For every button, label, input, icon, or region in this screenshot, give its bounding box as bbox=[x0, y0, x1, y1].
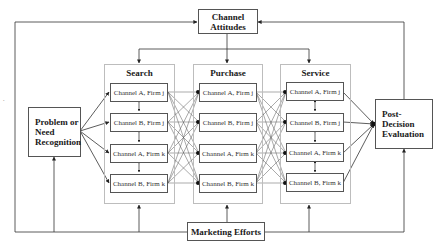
channel-box: Channel B, Firm j bbox=[110, 113, 168, 132]
channel-attitudes-box: Channel Attitudes bbox=[198, 9, 258, 34]
stage-title: Purchase bbox=[194, 68, 262, 78]
channel-box: Channel A, Firm j bbox=[110, 83, 168, 102]
channel-box: Channel A, Firm k bbox=[110, 144, 168, 163]
channel-box: Channel B, Firm j bbox=[286, 113, 344, 132]
channel-box: Channel B, Firm k bbox=[199, 174, 257, 193]
stage-title: Service bbox=[281, 68, 350, 78]
channel-box: Channel B, Firm k bbox=[286, 173, 344, 192]
channel-box: Channel A, Firm k bbox=[199, 144, 257, 163]
post-decision-box: Post-Decision Evaluation bbox=[375, 99, 433, 149]
problem-recognition-box: Problem or Need Recognition bbox=[28, 107, 81, 157]
stage-title: Search bbox=[105, 68, 174, 78]
channel-box: Channel B, Firm j bbox=[199, 113, 257, 132]
stray-mark: . bbox=[3, 96, 5, 102]
channel-box: Channel B, Firm k bbox=[110, 174, 168, 193]
channel-box: Channel A, Firm j bbox=[286, 82, 344, 101]
channel-box: Channel A, Firm j bbox=[199, 83, 257, 102]
channel-box: Channel A, Firm k bbox=[286, 143, 344, 162]
marketing-efforts-box: Marketing Efforts bbox=[187, 222, 265, 241]
